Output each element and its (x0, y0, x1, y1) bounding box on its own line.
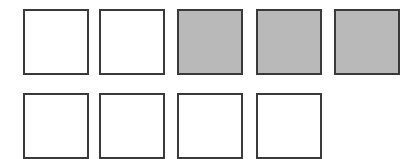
square-empty (23, 93, 89, 159)
square-empty (23, 9, 89, 75)
square-empty (99, 9, 165, 75)
square-empty (177, 93, 243, 159)
square-filled (334, 9, 400, 75)
square-filled (177, 9, 243, 75)
square-empty (99, 93, 165, 159)
square-empty (256, 93, 322, 159)
square-filled (256, 9, 322, 75)
